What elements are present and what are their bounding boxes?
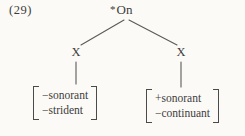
feature-line: +sonorant bbox=[155, 91, 210, 106]
right-square-bracket bbox=[91, 86, 97, 120]
feature-line: −strident bbox=[42, 103, 88, 118]
feature-matrix-right: +sonorant −continuant bbox=[146, 89, 219, 123]
x-node-left: X bbox=[69, 45, 83, 60]
right-square-bracket bbox=[213, 89, 219, 123]
feature-matrix-left: −sonorant −strident bbox=[33, 86, 97, 120]
feature-line: −continuant bbox=[155, 106, 210, 121]
phonology-tree-diagram: (29) *On X X −sonorant −strident +sonora… bbox=[0, 0, 245, 136]
feature-line: −sonorant bbox=[42, 88, 88, 103]
x-node-right: X bbox=[174, 45, 188, 60]
